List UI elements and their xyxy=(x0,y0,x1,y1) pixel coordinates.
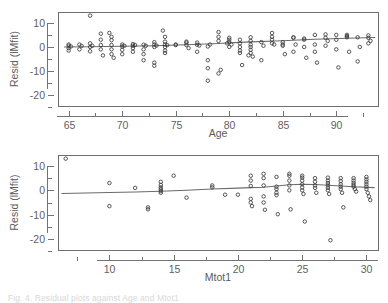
data-point xyxy=(108,204,112,208)
y-tick-label-mtot1: -20 xyxy=(30,233,45,245)
x-tick-label-mtot1: 10 xyxy=(104,263,116,275)
data-point xyxy=(313,180,317,184)
y-tick-label-age: -10 xyxy=(30,65,45,77)
data-point xyxy=(206,66,210,70)
data-point xyxy=(249,197,253,201)
data-point xyxy=(356,36,360,40)
x-tick-label-age: 90 xyxy=(331,119,343,131)
data-point xyxy=(142,52,146,56)
data-point xyxy=(131,50,135,54)
data-point xyxy=(249,174,253,178)
data-point xyxy=(185,196,189,200)
data-point xyxy=(335,48,339,52)
panel-resid-vs-age: 100-10-20Resid (lMfit)657075808590Age xyxy=(8,13,379,140)
data-point xyxy=(108,31,112,35)
data-point xyxy=(240,63,244,67)
data-point xyxy=(110,52,114,56)
data-point xyxy=(294,43,298,47)
data-point xyxy=(99,38,103,42)
data-point xyxy=(275,193,279,197)
data-point xyxy=(110,48,114,52)
x-tick-label-age: 65 xyxy=(64,119,76,131)
data-point xyxy=(305,56,309,60)
y-tick-label-mtot1: 0 xyxy=(39,184,45,196)
data-point xyxy=(250,204,254,208)
data-point xyxy=(217,30,221,34)
data-point xyxy=(238,38,242,42)
data-point xyxy=(313,176,317,180)
x-tick-label-age: 85 xyxy=(278,119,290,131)
x-tick-label-mtot1: 25 xyxy=(297,263,309,275)
data-point xyxy=(142,48,146,52)
data-point xyxy=(326,189,330,193)
x-tick-label-age: 75 xyxy=(171,119,183,131)
data-point xyxy=(112,56,116,60)
x-tick-label-age: 70 xyxy=(117,119,129,131)
data-point xyxy=(356,60,360,64)
figure-caption: Fig. 4. Residual plots against Age and M… xyxy=(8,293,380,303)
data-point xyxy=(262,172,266,176)
data-point xyxy=(108,181,112,185)
data-point xyxy=(347,50,351,54)
plot-frame-age xyxy=(59,13,379,107)
x-tick-label-mtot1: 20 xyxy=(233,263,245,275)
data-point xyxy=(275,187,279,191)
data-point xyxy=(303,220,307,224)
data-point xyxy=(367,195,371,199)
data-point xyxy=(358,45,362,49)
plot-frame-mtot1 xyxy=(59,156,379,251)
data-point xyxy=(260,58,264,62)
data-point xyxy=(288,179,292,183)
x-axis-title-age: Age xyxy=(209,127,228,139)
y-tick-label-mtot1: -10 xyxy=(30,209,45,221)
y-tick-label-age: -20 xyxy=(30,89,45,101)
data-point xyxy=(67,49,71,53)
data-point xyxy=(313,186,317,190)
data-point xyxy=(262,195,266,199)
y-tick-label-age: 0 xyxy=(39,41,45,53)
data-point xyxy=(251,55,255,59)
data-point xyxy=(313,50,317,54)
data-point xyxy=(342,206,346,210)
scatter-points-age xyxy=(67,14,372,83)
data-point xyxy=(315,61,319,64)
data-point xyxy=(142,58,146,62)
data-point xyxy=(249,36,253,40)
y-axis-title-age: Resid (lMfit) xyxy=(8,31,20,87)
x-tick-label-mtot1: 15 xyxy=(169,263,181,275)
data-point xyxy=(369,198,373,202)
data-point xyxy=(262,44,266,48)
panel-resid-vs-mtot1: 100-10-20Resid (lMfit)1015202530Mtot1 xyxy=(8,156,379,284)
y-axis-title-mtot1: Resid (lMfit) xyxy=(8,174,20,230)
data-point xyxy=(335,33,339,37)
data-point xyxy=(187,46,191,50)
data-point xyxy=(327,192,331,196)
data-point xyxy=(195,50,199,54)
data-point xyxy=(236,193,240,197)
data-point xyxy=(163,51,167,55)
data-point xyxy=(326,39,330,43)
data-point xyxy=(101,54,105,58)
data-point xyxy=(99,32,103,36)
data-point xyxy=(289,208,293,212)
data-point xyxy=(163,35,167,39)
data-point xyxy=(249,179,253,183)
x-tick-label-mtot1: 30 xyxy=(361,263,373,275)
data-point xyxy=(249,201,253,205)
data-point xyxy=(64,157,68,161)
y-tick-label-mtot1: 10 xyxy=(33,160,45,172)
data-point xyxy=(275,175,279,179)
data-point xyxy=(217,39,221,43)
data-point xyxy=(313,43,317,47)
data-point xyxy=(217,72,221,76)
data-point xyxy=(206,79,210,83)
x-axis-title-mtot1: Mtot1 xyxy=(205,271,231,283)
scatter-points-mtot1 xyxy=(64,157,372,242)
data-point xyxy=(365,187,369,191)
data-point xyxy=(276,212,280,216)
data-point xyxy=(292,50,296,54)
data-point xyxy=(88,50,92,54)
data-point xyxy=(324,44,328,48)
